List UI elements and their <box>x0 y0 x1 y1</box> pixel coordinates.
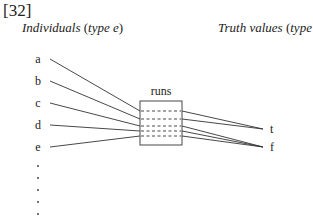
truth-value-label-f: f <box>270 140 274 154</box>
runs-box <box>140 101 182 145</box>
ellipsis-dot <box>37 165 39 167</box>
individual-label-a: a <box>35 52 41 66</box>
ellipsis-dot <box>37 177 39 179</box>
edge-out-b-t <box>182 119 263 129</box>
edge-out-a-t <box>182 111 263 129</box>
edge-out-d-f <box>182 131 263 147</box>
edge-in-a <box>50 59 140 111</box>
edge-in-e <box>50 136 140 147</box>
individual-label-b: b <box>35 74 41 88</box>
runs-label: runs <box>151 84 172 98</box>
edge-out-c-f <box>182 126 263 147</box>
ellipsis-dot <box>37 201 39 203</box>
edge-in-b <box>50 81 140 119</box>
individual-label-d: d <box>35 118 41 132</box>
ellipsis-dot <box>37 213 39 215</box>
function-diagram: runs abcde tf <box>0 0 313 221</box>
individual-label-c: c <box>35 96 40 110</box>
ellipsis-dot <box>37 189 39 191</box>
edge-in-d <box>50 125 140 131</box>
edge-out-e-f <box>182 136 263 147</box>
individual-label-e: e <box>35 140 40 154</box>
truth-value-label-t: t <box>270 122 274 136</box>
edge-in-c <box>50 103 140 126</box>
